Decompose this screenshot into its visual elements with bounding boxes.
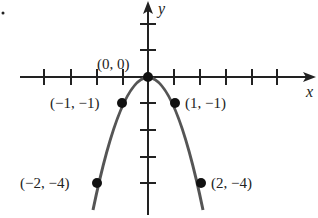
point-2-neg4 [196,178,206,188]
label-neg2-neg4: (−2, −4) [20,175,69,192]
parabola-graph: y x (0, 0) (−1, −1) (1, −1) (−2, −4) (2,… [0,0,318,218]
x-axis [20,69,316,85]
y-axis-label: y [156,0,166,18]
point-neg2-neg4 [92,178,102,188]
point-1-neg1 [170,98,180,108]
stray-mark [2,12,5,15]
y-axis [140,1,156,215]
label-neg1-neg1: (−1, −1) [50,95,99,112]
label-1-neg1: (1, −1) [185,95,226,112]
point-neg1-neg1 [117,98,127,108]
label-2-neg4: (2, −4) [211,175,252,192]
label-origin: (0, 0) [97,56,130,73]
point-origin [143,72,153,82]
x-axis-label: x [305,83,313,100]
